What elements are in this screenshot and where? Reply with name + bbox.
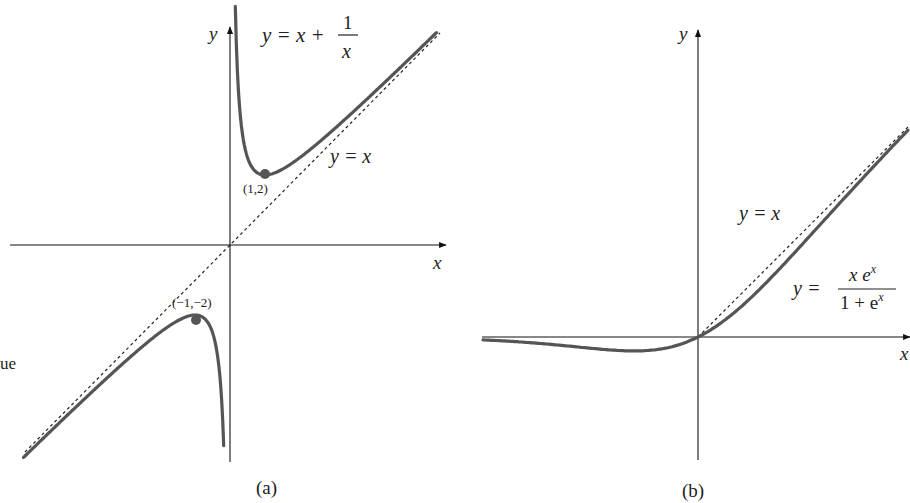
panel-a-equation-num: 1: [343, 12, 353, 33]
panel-b-y-axis-label: y: [677, 23, 688, 44]
panel-b-equation-num: x ex: [848, 262, 877, 285]
panel-a-point-label-neg1-neg2: (−1,−2): [172, 295, 212, 310]
panel-b: x y y = x y = x ex 1 + ex (b): [482, 23, 910, 502]
panel-a-equation: y = x + 1 x: [260, 12, 358, 62]
panel-b-curve: [483, 130, 908, 351]
margin-text: ue: [0, 354, 16, 373]
panel-a-equation-lhs: y = x +: [260, 23, 330, 47]
panel-a-point-label-1-2: (1,2): [243, 181, 268, 196]
panel-a-point-1-2: [260, 169, 270, 179]
panel-b-caption: (b): [682, 480, 704, 502]
panel-a: x y (1,2) (−1,−2) y = x + 1 x y = x (a): [10, 6, 446, 499]
figure: ue x y (1,2) (−1,−2) y = x + 1 x y = x (…: [0, 0, 910, 503]
panel-a-curve-left: [24, 315, 224, 457]
panel-a-x-axis-label: x: [432, 252, 442, 273]
panel-a-asymptote: [25, 33, 440, 452]
panel-b-equation-lhs: y =: [791, 277, 825, 300]
panel-a-y-axis-label: y: [207, 23, 218, 44]
panel-a-asymptote-label: y = x: [328, 145, 371, 168]
panel-b-asymptote-label: y = x: [737, 202, 780, 225]
panel-b-equation-den: 1 + ex: [840, 290, 884, 313]
panel-b-equation: y = x ex 1 + ex: [791, 262, 896, 313]
panel-a-equation-den: x: [341, 40, 351, 62]
panel-b-x-axis-label: x: [899, 343, 909, 364]
panel-a-caption: (a): [256, 477, 277, 499]
panel-a-point-neg1-neg2: [191, 315, 201, 325]
